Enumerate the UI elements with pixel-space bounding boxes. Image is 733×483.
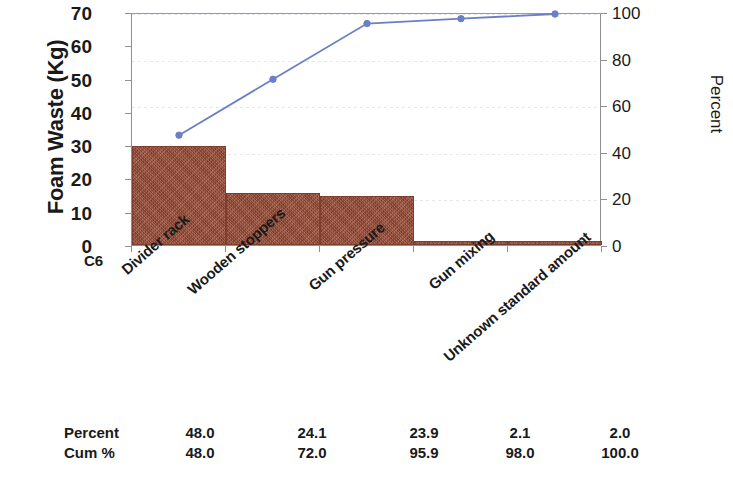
cumulative-line [179, 14, 555, 135]
table-cell: 72.0 [272, 444, 352, 461]
y-axis-tick-label: 10 [46, 203, 92, 222]
table-cell: 2.0 [580, 424, 660, 441]
table-cell: 48.0 [160, 424, 240, 441]
table-row-header: Percent [64, 424, 174, 441]
table-cell: 48.0 [160, 444, 240, 461]
line-marker [364, 20, 370, 26]
y-axis-tick-label: 50 [46, 70, 92, 89]
pareto-chart: Foam Waste (Kg) Percent 010203040506070 … [0, 0, 733, 483]
line-marker [458, 15, 464, 21]
secondary-y-axis-tick-label: 80 [612, 51, 656, 68]
secondary-y-axis-tick-label: 100 [612, 5, 656, 22]
x-axis-variable-label: C6 [84, 252, 103, 269]
table-cell: 23.9 [384, 424, 464, 441]
secondary-y-axis-tick-label: 20 [612, 191, 656, 208]
table-cell: 24.1 [272, 424, 352, 441]
line-marker [270, 76, 276, 82]
table-cell: 98.0 [480, 444, 560, 461]
table-cell: 2.1 [480, 424, 560, 441]
line-marker [176, 132, 182, 138]
table-row-header: Cum % [64, 444, 174, 461]
table-row: Cum %48.072.095.998.0100.0 [0, 444, 733, 464]
secondary-y-axis-title: Percent [706, 24, 726, 184]
secondary-y-axis-tick-label: 60 [612, 98, 656, 115]
y-axis-tick-label: 70 [46, 4, 92, 23]
table-row: Percent48.024.123.92.12.0 [0, 424, 733, 444]
table-cell: 100.0 [580, 444, 660, 461]
line-marker [552, 11, 558, 17]
secondary-y-axis-tick-label: 40 [612, 144, 656, 161]
y-axis-tick-label: 20 [46, 170, 92, 189]
y-axis-tick-label: 40 [46, 103, 92, 122]
secondary-y-axis-tick-label: 0 [612, 238, 656, 255]
pareto-data-table: Percent48.024.123.92.12.0Cum %48.072.095… [0, 424, 733, 464]
y-axis-tick-label: 60 [46, 37, 92, 56]
table-cell: 95.9 [384, 444, 464, 461]
plot-area [131, 13, 601, 246]
cumulative-line-series [132, 14, 602, 247]
y-axis-tick-label: 30 [46, 137, 92, 156]
